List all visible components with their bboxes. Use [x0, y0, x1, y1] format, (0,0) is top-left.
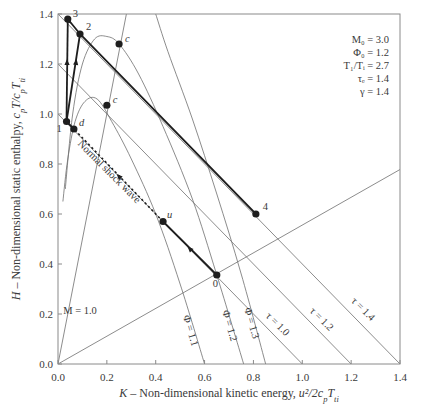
y-axis-label-part: T/c	[9, 93, 23, 109]
point-label: d	[79, 117, 85, 128]
legend-entry: γ = 1.4	[359, 86, 390, 97]
x-tick-label: 1.0	[295, 371, 309, 383]
y-tick-label: 0.8	[39, 158, 53, 170]
x-axis-label-part: – Non-dimensional kinetic energy,	[127, 386, 299, 400]
y-tick-label: 1.4	[39, 8, 53, 20]
normal-shock-label: Normal shock wave	[76, 138, 143, 205]
phi-1-3-label: Φ = 1.3	[242, 306, 261, 340]
state-point-u	[159, 218, 166, 225]
x-axis-label-part: ti	[334, 394, 339, 404]
point-label: 1	[57, 123, 62, 134]
x-tick-label: 0.2	[100, 371, 114, 383]
y-axis-label-part: – Non-dimensional static enthalpy,	[9, 118, 23, 291]
cycle-segment	[67, 19, 68, 122]
point-label: 4	[263, 201, 269, 212]
state-point-d	[70, 125, 77, 132]
legend-entry: M₀ = 3.0	[352, 34, 389, 45]
x-tick-label: 0.4	[149, 371, 163, 383]
point-label: c	[113, 94, 118, 105]
mach-line-label: M = 1.0	[63, 305, 97, 316]
x-tick-label: 1.2	[344, 371, 358, 383]
state-point-1	[63, 118, 70, 125]
y-tick-label: 0.6	[39, 208, 53, 220]
tau-1-0-label: τ = 1.0	[264, 310, 292, 338]
y-tick-label: 0.2	[39, 308, 53, 320]
point-label: 2	[86, 21, 91, 32]
state-point-3	[64, 15, 71, 22]
x-tick-label: 0.8	[247, 371, 261, 383]
y-tick-label: 1.2	[39, 58, 53, 70]
y-axis-label: H – Non-dimensional static enthalpy, cpT…	[9, 77, 27, 301]
state-point-4	[252, 210, 259, 217]
h-k-diagram: 0.00.20.40.60.81.01.21.40.00.20.40.60.81…	[0, 0, 421, 420]
x-tick-label: 1.4	[393, 371, 407, 383]
tau-1-2-label: τ = 1.2	[308, 305, 336, 333]
y-tick-label: 1.0	[39, 108, 53, 120]
phi-1-1-label: Φ = 1.1	[181, 314, 200, 348]
reference-line	[58, 64, 351, 364]
point-label: 3	[73, 8, 78, 19]
y-tick-label: 0.4	[39, 258, 53, 270]
state-point-c	[115, 40, 122, 47]
x-tick-label: 0.0	[51, 371, 65, 383]
tau-1-4-label: τ = 1.4	[349, 295, 377, 323]
point-label: 0	[213, 278, 218, 289]
phi-1-2-label: Φ = 1.2	[220, 309, 239, 343]
flow-arrow-icon	[64, 59, 69, 65]
point-label: u	[167, 209, 172, 220]
y-axis-label-part: ti	[17, 77, 27, 82]
x-tick-label: 0.6	[198, 371, 212, 383]
x-axis-label-part: u²/2c	[299, 386, 324, 400]
legend-entry: T₁/Tᵢ = 2.7	[344, 60, 389, 71]
x-axis-label: K – Non-dimensional kinetic energy, u²/2…	[118, 386, 339, 404]
cycle-segment	[68, 19, 256, 214]
state-point-c	[103, 102, 110, 109]
y-tick-label: 0.0	[39, 358, 53, 370]
point-label: c	[125, 33, 130, 44]
legend-entry: τₑ = 1.4	[358, 73, 390, 84]
legend: M₀ = 3.0Φ₀ = 1.2T₁/Tᵢ = 2.7τₑ = 1.4γ = 1…	[344, 34, 390, 97]
state-point-2	[76, 30, 83, 37]
legend-entry: Φ₀ = 1.2	[353, 47, 389, 58]
